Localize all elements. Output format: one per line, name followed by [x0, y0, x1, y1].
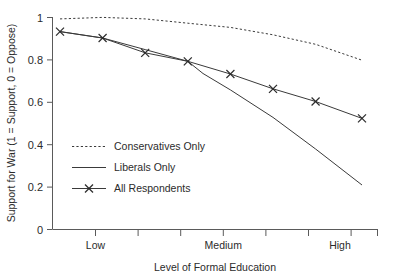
legend-label-liberals-only: Liberals Only: [114, 161, 176, 173]
chart-legend: Conservatives Only Liberals Only All Res…: [72, 140, 206, 194]
x-tick-label-high: High: [329, 239, 351, 251]
y-tick-label-0.2: 0.2: [28, 181, 43, 193]
series-line-all-respondents: [60, 32, 362, 119]
data-point-marker: [226, 70, 234, 78]
y-tick-label-0.4: 0.4: [28, 139, 43, 151]
y-tick-label-0: 0: [37, 224, 43, 236]
data-point-marker: [312, 98, 320, 106]
x-tick-label-low: Low: [86, 239, 106, 251]
x-axis-title: Level of Formal Education: [154, 261, 276, 273]
data-point-marker: [184, 57, 192, 65]
data-point-marker: [358, 114, 366, 122]
legend-label-all-respondents: All Respondents: [114, 182, 190, 194]
series-line-liberals-only: [60, 32, 362, 185]
y-tick-label-0.8: 0.8: [28, 54, 43, 66]
chart-figure: 1 0.8 0.6 0.4 0.2 0 Low Medium High Leve…: [0, 0, 396, 278]
x-tick-label-medium: Medium: [205, 239, 243, 251]
y-tick-label-1: 1: [37, 12, 43, 24]
y-tick-label-0.6: 0.6: [28, 96, 43, 108]
x-axis-ticks: [96, 230, 378, 237]
data-point-marker: [269, 85, 277, 93]
series-markers-all-respondents: [56, 28, 366, 123]
legend-label-conservatives-only: Conservatives Only: [114, 140, 206, 152]
y-axis-title: Support for War (1 = Support, 0 = Oppose…: [5, 24, 17, 223]
y-axis-ticks: [47, 18, 53, 230]
line-chart: 1 0.8 0.6 0.4 0.2 0 Low Medium High Leve…: [0, 0, 396, 278]
